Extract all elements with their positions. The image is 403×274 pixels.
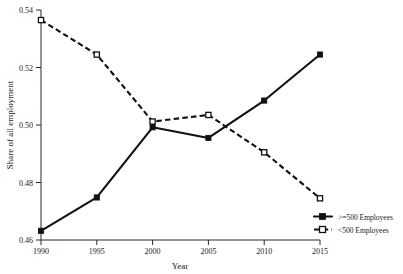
data-point-marker [317, 52, 322, 57]
legend-item-under-500[interactable]: <500 Employees [314, 226, 389, 235]
data-point-marker [94, 52, 99, 57]
y-axis-ticks [36, 10, 41, 240]
data-point-marker [317, 196, 322, 201]
x-tick-label: 1990 [33, 247, 49, 256]
chart-legend: >=500 Employees <500 Employees [314, 213, 393, 235]
data-point-marker [94, 195, 99, 200]
y-axis-title: Share of all employment [5, 80, 15, 169]
y-tick-label: 0.52 [19, 64, 33, 73]
x-axis-tick-labels: 1990 1995 2000 2005 2010 2015 [33, 247, 328, 256]
chart-container: 0.46 0.48 0.50 0.52 0.54 1990 1995 2000 … [0, 0, 403, 274]
data-point-marker [150, 125, 155, 130]
x-axis-ticks [41, 240, 320, 245]
series-line-under-500 [41, 20, 320, 198]
line-chart: 0.46 0.48 0.50 0.52 0.54 1990 1995 2000 … [0, 0, 403, 274]
data-point-marker [206, 112, 211, 117]
data-point-marker [262, 150, 267, 155]
x-tick-label: 1995 [89, 247, 105, 256]
data-point-marker [38, 17, 43, 22]
y-tick-label: 0.54 [19, 6, 33, 15]
x-tick-label: 2015 [312, 247, 328, 256]
x-axis-title: Year [172, 261, 189, 271]
legend-label-under-500: <500 Employees [338, 226, 389, 235]
x-tick-label: 2000 [145, 247, 161, 256]
y-tick-label: 0.46 [19, 236, 33, 245]
data-point-marker [262, 98, 267, 103]
open-square-marker-icon [320, 227, 326, 233]
x-tick-label: 2010 [256, 247, 272, 256]
y-tick-label: 0.48 [19, 179, 33, 188]
series-line-over-500 [41, 55, 320, 231]
y-axis-tick-labels: 0.46 0.48 0.50 0.52 0.54 [19, 6, 33, 245]
legend-label-over-500: >=500 Employees [338, 213, 393, 222]
y-tick-label: 0.50 [19, 121, 33, 130]
legend-item-over-500[interactable]: >=500 Employees [314, 213, 393, 222]
data-point-marker [206, 135, 211, 140]
data-point-marker [150, 119, 155, 124]
x-tick-label: 2005 [200, 247, 216, 256]
filled-square-marker-icon [320, 214, 326, 220]
data-point-marker [38, 228, 43, 233]
